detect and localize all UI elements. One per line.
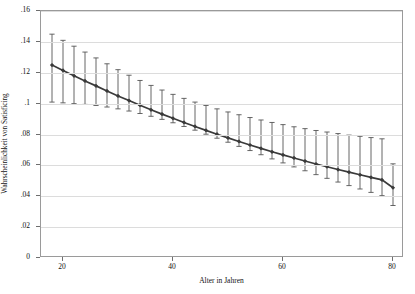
error-bar	[280, 125, 285, 163]
gridline-horizontal	[41, 73, 402, 74]
error-bar	[346, 135, 351, 185]
error-bar	[137, 80, 142, 113]
data-point-marker	[281, 153, 285, 157]
x-tick-label: 40	[168, 263, 176, 271]
y-axis: Wahrscheinlichkeit von Satisficing 0.02.…	[0, 10, 40, 257]
error-bar	[390, 164, 395, 206]
error-bar	[313, 130, 318, 174]
y-tick-label: .16	[21, 6, 30, 14]
gridline-horizontal	[41, 104, 402, 105]
y-tick-label: .12	[21, 68, 30, 76]
x-tick-mark	[172, 257, 173, 261]
x-tick-mark	[282, 257, 283, 261]
gridline-horizontal	[41, 165, 402, 166]
gridline-horizontal	[41, 196, 402, 197]
data-point-marker	[259, 146, 263, 150]
x-axis-title: Alter in Jahren	[40, 276, 403, 285]
data-point-marker	[336, 167, 340, 171]
x-axis: Alter in Jahren 20406080	[40, 257, 403, 294]
error-bar	[49, 34, 54, 102]
gridline-horizontal	[41, 11, 402, 12]
error-bar	[357, 136, 362, 189]
error-bar	[126, 75, 131, 111]
x-tick-label: 80	[388, 263, 396, 271]
gridline-horizontal	[41, 135, 402, 136]
gridline-horizontal	[41, 42, 402, 43]
data-point-marker	[347, 170, 351, 174]
data-point-marker	[292, 156, 296, 160]
x-tick-label: 60	[278, 263, 286, 271]
data-point-marker	[358, 173, 362, 177]
data-point-marker	[237, 139, 241, 143]
data-point-marker	[303, 159, 307, 163]
error-bar	[104, 64, 109, 107]
error-bar	[93, 58, 98, 106]
y-axis-title: Wahrscheinlichkeit von Satisficing	[0, 20, 11, 267]
chart-figure: Wahrscheinlichkeit von Satisficing 0.02.…	[0, 0, 415, 294]
error-bar	[82, 52, 87, 104]
plot-area	[40, 10, 403, 257]
data-point-marker	[248, 143, 252, 147]
gridline-horizontal	[41, 227, 402, 228]
data-point-marker	[204, 128, 208, 132]
error-bar	[291, 127, 296, 167]
data-point-marker	[182, 120, 186, 124]
y-tick-label: .08	[21, 130, 30, 138]
y-tick-label: .1	[24, 99, 30, 107]
y-tick-label: .04	[21, 192, 30, 200]
x-tick-label: 20	[58, 263, 66, 271]
error-bar	[324, 132, 329, 178]
data-point-marker	[369, 175, 373, 179]
error-bar	[335, 134, 340, 182]
y-tick-label: .02	[21, 222, 30, 230]
x-tick-mark	[62, 257, 63, 261]
data-point-marker	[226, 136, 230, 140]
error-bar	[379, 139, 384, 196]
data-point-marker	[270, 150, 274, 154]
series-group	[49, 34, 395, 205]
data-point-marker	[171, 116, 175, 120]
y-tick-label: 0	[26, 253, 30, 261]
trend-line	[52, 65, 393, 188]
x-tick-mark	[392, 257, 393, 261]
y-tick-label: .06	[21, 161, 30, 169]
data-point-marker	[193, 124, 197, 128]
y-tick-label: .14	[21, 37, 30, 45]
